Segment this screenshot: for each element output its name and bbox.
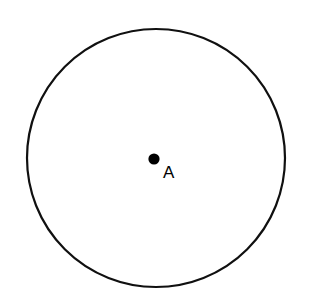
canvas-background: [0, 0, 315, 289]
geometry-figure: A: [0, 0, 315, 289]
diagram-canvas: A: [0, 0, 315, 289]
center-dot: [148, 153, 159, 164]
point-label-a: A: [163, 163, 175, 182]
